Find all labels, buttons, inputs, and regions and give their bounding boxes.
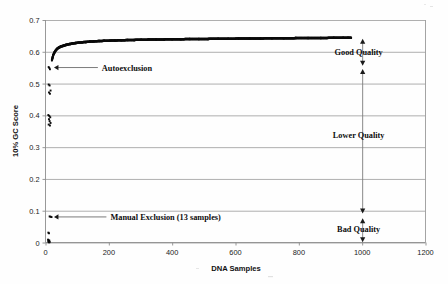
outlier-point — [49, 68, 51, 70]
outlier-point — [48, 118, 50, 120]
x-tick-label-1: 200 — [103, 248, 115, 257]
good-quality-label: Good Quality — [335, 48, 384, 57]
data-point — [350, 36, 352, 39]
x-tick-labels-group: 020040060080010001200 — [43, 248, 433, 257]
outlier-point — [49, 93, 51, 95]
y-tick-label-3: 0.3 — [29, 143, 39, 152]
outlier-point — [50, 90, 52, 92]
x-tick-label-6: 1200 — [417, 248, 433, 257]
x-tick-label-5: 1000 — [354, 248, 370, 257]
y-tick-label-5: 0.5 — [29, 80, 39, 89]
y-tick-label-2: 0.2 — [29, 175, 39, 184]
y-tick-label-6: 0.6 — [29, 48, 39, 57]
bad-quality-label: Bad Quality — [337, 225, 381, 234]
quality-brackets-group: Good QualityLower QualityBad Quality — [333, 39, 386, 242]
x-tick-label-3: 600 — [229, 248, 241, 257]
good-quality-arrowhead-top — [360, 39, 365, 44]
y-tick-label-0: 0 — [35, 239, 39, 248]
y-tick-label-4: 0.4 — [29, 111, 39, 120]
manual-exclusion-arrowhead — [54, 214, 59, 219]
bad-quality-arrowhead-bottom — [360, 237, 365, 242]
x-tick-label-4: 800 — [293, 248, 305, 257]
outlier-point — [49, 85, 51, 87]
manual-exclusion-label: Manual Exclusion (13 samples) — [110, 213, 221, 222]
autoexclusion-arrowhead — [54, 65, 59, 70]
outlier-point — [49, 120, 51, 122]
y-tick-label-7: 0.7 — [29, 16, 39, 25]
outlier-point — [48, 232, 50, 234]
outlier-point — [48, 241, 50, 243]
annotations-group: AutoexclusionManual Exclusion (13 sample… — [54, 64, 221, 222]
outlier-point — [51, 216, 53, 218]
y-axis-title: 10% GC Score — [11, 105, 20, 157]
outlier-point — [49, 116, 51, 118]
outlier-point — [50, 122, 52, 124]
bad-quality-arrowhead-top — [360, 218, 365, 223]
y-tick-labels-group: 00.10.20.30.40.50.60.7 — [29, 16, 39, 248]
scan-noise — [196, 4, 433, 277]
lower-quality-arrowhead-top — [360, 69, 365, 74]
x-axis-title: DNA Samples — [211, 264, 261, 273]
y-tick-label-1: 0.1 — [29, 207, 39, 216]
chart-figure: 00.10.20.30.40.50.60.7 02004006008001000… — [0, 0, 448, 284]
gc-score-scatter-chart: 00.10.20.30.40.50.60.7 02004006008001000… — [0, 0, 448, 284]
lower-quality-label: Lower Quality — [333, 131, 386, 140]
good-quality-arrowhead-bottom — [360, 61, 365, 66]
x-tick-label-0: 0 — [43, 248, 47, 257]
outlier-point — [49, 125, 51, 127]
autoexclusion-label: Autoexclusion — [102, 64, 153, 73]
x-tick-label-2: 400 — [166, 248, 178, 257]
